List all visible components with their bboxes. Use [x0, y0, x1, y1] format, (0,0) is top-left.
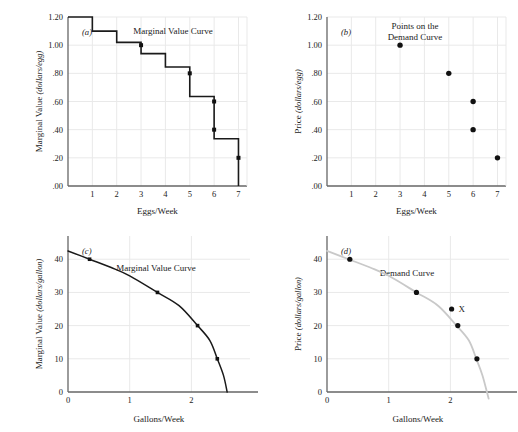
- x-tick-label: 5: [188, 189, 192, 199]
- x-tick-label: 3: [398, 189, 402, 199]
- gridlines: [327, 236, 509, 392]
- x-tick-label: 1: [90, 189, 94, 199]
- x-tick-label: 2: [189, 395, 193, 405]
- panel-letter: (b): [341, 27, 351, 37]
- x-tick-label: 1: [349, 189, 353, 199]
- annotation-line: Marginal Value Curve: [133, 26, 213, 36]
- y-tick-label: .40: [52, 125, 63, 135]
- x-tick-label: 0: [66, 395, 70, 405]
- y-tick-label: 30: [55, 287, 64, 297]
- annotation-line: Demand Curve: [388, 32, 443, 42]
- panel-annotation: Demand Curve: [380, 268, 435, 278]
- data-point: [156, 291, 160, 295]
- x-axis-title: Eggs/Week: [396, 206, 437, 216]
- y-tick-label: 10: [55, 354, 64, 364]
- y-axis-title: Price (dollars/gallon): [293, 277, 303, 351]
- x-axis-title: Eggs/Week: [137, 206, 178, 216]
- panel-b: 12345671.201.00.80.60.40.20.00Eggs/WeekP…: [259, 0, 518, 216]
- y-tick-label: 10: [314, 354, 323, 364]
- tick-labels: 012010203040: [55, 254, 194, 405]
- gridlines: [68, 17, 247, 186]
- gridlines: [68, 236, 250, 392]
- data-point: [139, 43, 143, 47]
- svg-text:Marginal Value (dollars/gallon: Marginal Value (dollars/gallon): [34, 258, 44, 369]
- panel-letter: (c): [82, 246, 92, 256]
- x-tick-label: 4: [422, 189, 427, 199]
- data-point: [216, 357, 220, 361]
- data-point: [397, 42, 402, 47]
- x-tick-label: 7: [236, 189, 240, 199]
- y-tick-label: .80: [52, 68, 63, 78]
- panel-annotation: Marginal Value Curve: [116, 263, 196, 273]
- annotation-line: Demand Curve: [380, 268, 435, 278]
- x-tick-label: 1: [128, 395, 132, 405]
- data-point: [455, 323, 460, 328]
- data-point: [88, 257, 92, 261]
- y-axis-title: Marginal Value (dollars/egg): [34, 51, 44, 153]
- y-tick-label: 30: [314, 287, 323, 297]
- x-tick-label: 2: [448, 395, 452, 405]
- svg-text:Price (dollars/gallon): Price (dollars/gallon): [293, 277, 303, 351]
- data-point: [470, 99, 475, 104]
- x-axis-title: Gallons/Week: [393, 414, 444, 424]
- y-tick-label: .40: [311, 125, 322, 135]
- x-tick-label: 2: [115, 189, 119, 199]
- x-tick-label: 0: [325, 395, 329, 405]
- data-point: [449, 306, 454, 311]
- y-tick-label: 1.20: [307, 12, 322, 22]
- y-tick-label: .20: [52, 153, 63, 163]
- gridlines: [327, 17, 506, 186]
- annotation-line: Points on the: [391, 21, 438, 31]
- y-tick-label: .00: [311, 181, 322, 191]
- data-point: [196, 324, 200, 328]
- panel-letter: (a): [82, 27, 92, 37]
- data-point: [236, 156, 240, 160]
- x-tick-label: 1: [387, 395, 391, 405]
- x-tick-label: 6: [471, 189, 475, 199]
- panel-annotation: Points on theDemand Curve: [388, 21, 443, 42]
- y-tick-label: 1.00: [48, 40, 63, 50]
- data-point: [446, 71, 451, 76]
- x-tick-label: 7: [495, 189, 499, 199]
- panel-letter: (d): [341, 246, 351, 256]
- x-tick-label: 6: [212, 189, 216, 199]
- x-tick-label: 5: [447, 189, 451, 199]
- y-tick-label: 40: [314, 254, 323, 264]
- y-tick-label: 1.00: [307, 40, 322, 50]
- panel-a: 12345671.201.00.80.60.40.20.00Eggs/WeekM…: [0, 0, 259, 216]
- y-tick-label: .20: [311, 153, 322, 163]
- y-axis-title: Price (dollars/egg): [293, 69, 303, 134]
- annotation-line: Marginal Value Curve: [116, 263, 196, 273]
- data-point: [347, 257, 352, 262]
- data-point: [212, 100, 216, 104]
- four-panel-economics-figure: 12345671.201.00.80.60.40.20.00Eggs/WeekM…: [0, 0, 518, 432]
- x-tick-label: 3: [139, 189, 143, 199]
- panel-annotation: Marginal Value Curve: [133, 26, 213, 36]
- point-label-x: X: [459, 304, 466, 314]
- data-point: [414, 290, 419, 295]
- data-point: [470, 127, 475, 132]
- y-tick-label: .80: [311, 68, 322, 78]
- panel-d: 012010203040Gallons/WeekPrice (dollars/g…: [259, 216, 518, 432]
- data-point: [188, 71, 192, 75]
- y-tick-label: .00: [52, 181, 63, 191]
- svg-text:Price (dollars/egg): Price (dollars/egg): [293, 69, 303, 134]
- y-tick-label: 20: [314, 321, 323, 331]
- y-tick-label: 0: [59, 387, 63, 397]
- data-point: [495, 155, 500, 160]
- y-tick-label: 40: [55, 254, 64, 264]
- svg-text:Marginal Value (dollars/egg): Marginal Value (dollars/egg): [34, 51, 44, 153]
- y-axis-title: Marginal Value (dollars/gallon): [34, 258, 44, 369]
- tick-labels: 12345671.201.00.80.60.40.20.00: [48, 12, 240, 199]
- x-axis-title: Gallons/Week: [134, 414, 185, 424]
- y-tick-label: 1.20: [48, 12, 63, 22]
- data-point: [474, 356, 479, 361]
- y-tick-label: .60: [311, 97, 322, 107]
- y-tick-label: 20: [55, 321, 64, 331]
- x-tick-label: 4: [163, 189, 168, 199]
- y-tick-label: 0: [318, 387, 322, 397]
- x-tick-label: 2: [374, 189, 378, 199]
- y-tick-label: .60: [52, 97, 63, 107]
- data-point: [212, 128, 216, 132]
- panel-c: 012010203040Gallons/WeekMarginal Value (…: [0, 216, 259, 432]
